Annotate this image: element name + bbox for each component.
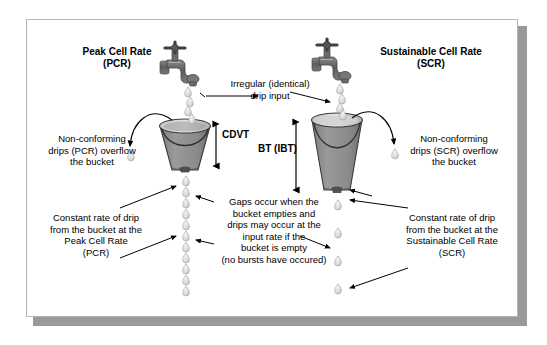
leader-constant-left-top [120,186,176,208]
bucket-right-group [312,113,363,193]
label-cdvt: CDVT [222,129,262,141]
label-constant-rate-left: Constant rate of drip from the bucket at… [28,212,164,258]
leader-irregular-left [200,93,205,97]
label-gaps-note: Gaps occur when the bucket empties and d… [196,196,352,265]
label-peak-cell-rate: Peak Cell Rate (PCR) [58,46,176,70]
label-irregular-drip-input: Irregular (identical) drip input [208,78,332,101]
label-non-conforming-left: Non-conforming drips (PCR) overflow the … [30,133,154,168]
leader-constant-right-top [350,200,408,208]
drip-input-left [185,87,196,124]
label-constant-rate-right: Constant rate of drip from the bucket at… [382,212,522,258]
label-sustainable-cell-rate: Sustainable Cell Rate (SCR) [366,46,496,70]
faucet-right-icon [312,39,351,83]
label-bt-ibt: BT (IBT) [258,143,306,155]
leader-constant-right-bottom [350,268,408,288]
diagram-page: Peak Cell Rate (PCR) Sustainable Cell Ra… [0,0,547,345]
drip-column-left [183,176,190,296]
label-non-conforming-right: Non-conforming drips (SCR) overflow the … [392,133,516,168]
bucket-left-group [160,119,211,172]
leader-gaps-right2 [350,190,372,196]
